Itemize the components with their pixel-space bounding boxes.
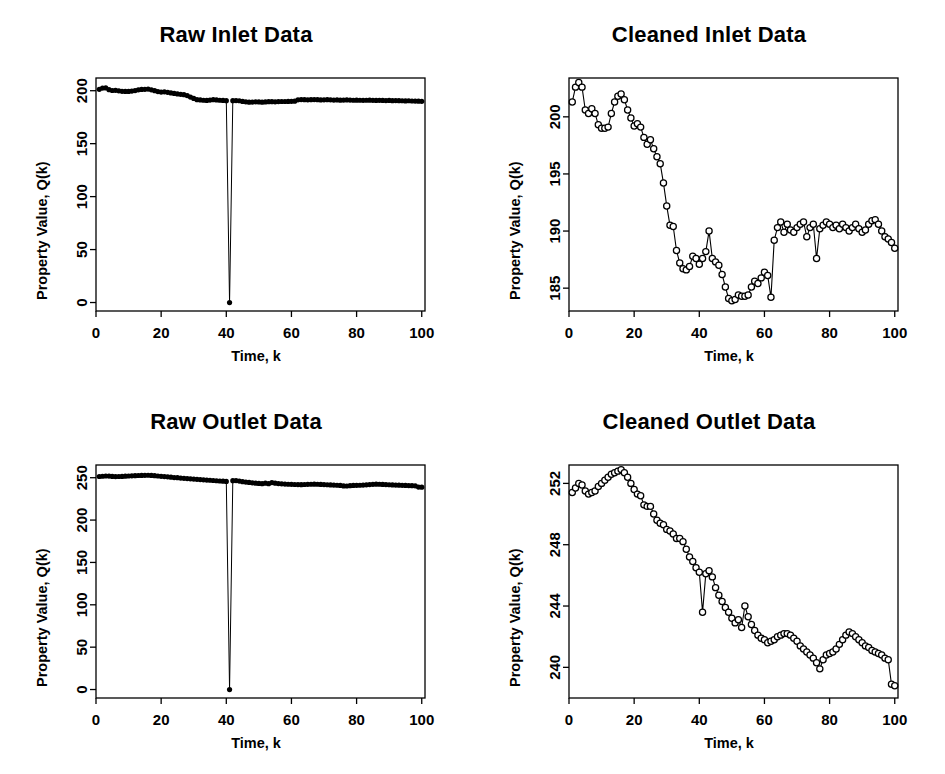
x-tick-label: 20 bbox=[626, 324, 643, 341]
data-point bbox=[569, 99, 575, 105]
data-point bbox=[716, 592, 722, 598]
x-tick-label: 40 bbox=[218, 324, 235, 341]
data-point bbox=[628, 480, 634, 486]
y-tick-label: 150 bbox=[73, 550, 90, 575]
data-point bbox=[605, 124, 611, 130]
x-tick-label: 40 bbox=[218, 711, 235, 728]
data-point bbox=[748, 621, 754, 627]
y-tick-label: 240 bbox=[546, 655, 563, 680]
x-tick-label: 0 bbox=[92, 711, 100, 728]
data-point bbox=[690, 558, 696, 564]
data-point bbox=[742, 603, 748, 609]
data-point bbox=[771, 237, 777, 243]
data-point bbox=[781, 229, 787, 235]
data-point bbox=[892, 245, 898, 251]
y-tick-label: 50 bbox=[73, 639, 90, 656]
data-point bbox=[647, 503, 653, 509]
y-tick-label: 200 bbox=[73, 78, 90, 103]
data-point bbox=[699, 609, 705, 615]
data-point bbox=[800, 219, 806, 225]
data-point bbox=[745, 614, 751, 620]
y-tick-label: 100 bbox=[73, 184, 90, 209]
data-point bbox=[765, 272, 771, 278]
data-point bbox=[706, 568, 712, 574]
y-tick-label: 190 bbox=[546, 219, 563, 244]
x-tick-label: 80 bbox=[348, 711, 365, 728]
data-point bbox=[810, 221, 816, 227]
series-line bbox=[572, 470, 894, 686]
data-point bbox=[709, 574, 715, 580]
x-tick-label: 20 bbox=[153, 711, 170, 728]
data-point bbox=[885, 657, 891, 663]
y-tick-label: 244 bbox=[546, 593, 563, 619]
data-point bbox=[579, 482, 585, 488]
data-point bbox=[638, 493, 644, 499]
y-tick-label: 150 bbox=[73, 131, 90, 156]
y-tick-label: 195 bbox=[546, 161, 563, 186]
data-point bbox=[722, 284, 728, 290]
data-point bbox=[726, 609, 732, 615]
data-point bbox=[699, 255, 705, 261]
data-point bbox=[813, 255, 819, 261]
plot-frame bbox=[96, 465, 425, 698]
plot-canvas-raw-inlet: 020406080100050100150200 bbox=[0, 0, 472, 387]
plot-frame bbox=[96, 78, 425, 311]
y-tick-label: 50 bbox=[73, 241, 90, 258]
x-tick-label: 0 bbox=[565, 711, 573, 728]
data-point bbox=[227, 300, 232, 305]
plot-canvas-cleaned-inlet: 020406080100185190195200 bbox=[473, 0, 945, 387]
x-tick-label: 0 bbox=[92, 324, 100, 341]
panel-cleaned-outlet: Cleaned Outlet Data Property Value, Q(k)… bbox=[473, 387, 945, 774]
y-tick-label: 185 bbox=[546, 276, 563, 301]
y-tick-label: 0 bbox=[73, 298, 90, 306]
series-line bbox=[99, 88, 421, 303]
plot-frame bbox=[569, 465, 898, 698]
x-tick-label: 60 bbox=[756, 711, 773, 728]
data-point bbox=[608, 110, 614, 116]
data-point bbox=[657, 161, 663, 167]
data-point bbox=[670, 223, 676, 229]
data-point bbox=[683, 546, 689, 552]
data-point bbox=[739, 624, 745, 630]
x-tick-label: 40 bbox=[691, 324, 708, 341]
figure-root: Raw Inlet Data Property Value, Q(k) Time… bbox=[0, 0, 945, 774]
x-tick-label: 20 bbox=[626, 711, 643, 728]
y-tick-label: 252 bbox=[546, 471, 563, 496]
data-point bbox=[875, 221, 881, 227]
data-point bbox=[579, 84, 585, 90]
data-point bbox=[804, 234, 810, 240]
data-point bbox=[660, 180, 666, 186]
x-tick-label: 80 bbox=[348, 324, 365, 341]
x-tick-label: 100 bbox=[882, 324, 907, 341]
x-tick-label: 20 bbox=[153, 324, 170, 341]
x-tick-label: 60 bbox=[283, 324, 300, 341]
y-tick-label: 200 bbox=[73, 508, 90, 533]
x-tick-label: 80 bbox=[821, 324, 838, 341]
x-tick-label: 40 bbox=[691, 711, 708, 728]
data-point bbox=[735, 617, 741, 623]
data-point bbox=[651, 511, 657, 517]
data-point bbox=[745, 292, 751, 298]
data-point bbox=[712, 585, 718, 591]
data-point bbox=[419, 485, 424, 490]
x-tick-label: 60 bbox=[756, 324, 773, 341]
y-tick-label: 100 bbox=[73, 592, 90, 617]
y-tick-label: 0 bbox=[73, 685, 90, 693]
data-point bbox=[680, 539, 686, 545]
x-tick-label: 60 bbox=[283, 711, 300, 728]
data-point bbox=[817, 666, 823, 672]
data-point bbox=[224, 98, 229, 103]
series-line bbox=[572, 83, 894, 301]
x-tick-label: 0 bbox=[565, 324, 573, 341]
data-point bbox=[719, 598, 725, 604]
data-point bbox=[638, 124, 644, 130]
data-point bbox=[651, 146, 657, 152]
data-point bbox=[647, 137, 653, 143]
data-point bbox=[664, 203, 670, 209]
y-tick-label: 200 bbox=[546, 104, 563, 129]
data-point bbox=[703, 249, 709, 255]
data-point bbox=[625, 474, 631, 480]
data-point bbox=[621, 97, 627, 103]
panel-raw-outlet: Raw Outlet Data Property Value, Q(k) Tim… bbox=[0, 387, 472, 774]
data-point bbox=[641, 134, 647, 140]
